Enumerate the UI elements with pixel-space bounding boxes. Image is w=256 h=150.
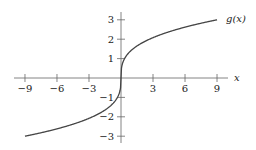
y-tick-label: 3 bbox=[108, 14, 114, 25]
x-tick-label: 6 bbox=[182, 83, 188, 94]
y-tick-label: 2 bbox=[108, 34, 114, 45]
x-tick-label: 3 bbox=[150, 83, 156, 94]
x-tick-label: −6 bbox=[50, 83, 65, 94]
y-tick-label: −1 bbox=[99, 92, 114, 103]
y-tick-label: −3 bbox=[99, 131, 114, 142]
y-tick-label: 1 bbox=[108, 53, 114, 64]
function-plot: −9−6−3369321−1−2−3 g(x) x bbox=[0, 0, 256, 150]
x-axis-label: x bbox=[234, 72, 240, 83]
x-tick-label: −9 bbox=[18, 83, 33, 94]
x-tick-label: −3 bbox=[82, 83, 97, 94]
curve-label: g(x) bbox=[226, 13, 246, 24]
x-tick-label: 9 bbox=[214, 83, 220, 94]
